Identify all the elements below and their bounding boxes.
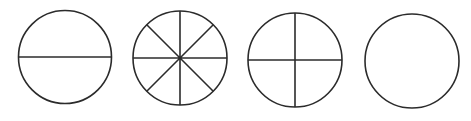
circle-eighths <box>133 11 227 105</box>
circle-whole <box>365 14 459 108</box>
center-point <box>178 56 182 60</box>
circle-halves <box>19 11 112 104</box>
circle-quarters <box>248 13 342 107</box>
circle-outline <box>365 14 459 108</box>
fraction-circles-diagram <box>0 0 471 121</box>
